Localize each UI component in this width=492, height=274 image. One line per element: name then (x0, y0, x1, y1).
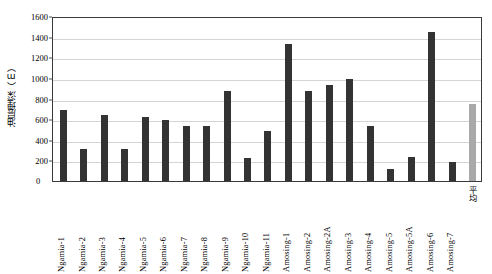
bar-slot (360, 18, 380, 181)
bar-slot (258, 18, 278, 181)
x-axis-label-slot: Amosing-3 (339, 186, 359, 272)
x-axis-tick-label: Amosing-3 (345, 186, 353, 272)
x-axis-tick-label: Amosing-4 (365, 186, 373, 272)
bar-slot (53, 18, 73, 181)
bar-chart: 油层埋深（m） 2004006008001000120014001600 Nga… (0, 0, 492, 274)
bar-slot (319, 18, 339, 181)
x-axis-tick-labels: Ngamia-1Ngamia-2Ngamia-3Ngamia-4Ngamia-5… (52, 186, 482, 272)
x-axis-tick-label: Amosing-5A (406, 186, 414, 272)
x-axis-label-slot: 平均 (462, 186, 482, 272)
bar[interactable] (60, 110, 67, 181)
bar[interactable] (285, 44, 292, 181)
y-axis-tick-label: 800 (35, 95, 48, 104)
x-axis-label-slot: Ngamia-4 (113, 186, 133, 272)
x-axis-tick-label: Ngamia-1 (58, 186, 66, 272)
bar-slot (135, 18, 155, 181)
bar-slot (73, 18, 93, 181)
bar-slot (217, 18, 237, 181)
x-axis-label-slot: Ngamia-3 (93, 186, 113, 272)
bar-slot (196, 18, 216, 181)
bar[interactable] (367, 126, 374, 181)
bar[interactable] (346, 79, 353, 181)
bar[interactable] (387, 169, 394, 181)
x-axis-label-slot: Ngamia-5 (134, 186, 154, 272)
x-axis-label-slot: Ngamia-2 (72, 186, 92, 272)
bar-slot (463, 18, 483, 181)
bar[interactable] (101, 115, 108, 182)
bar[interactable] (121, 149, 128, 181)
bar-slot (340, 18, 360, 181)
bar[interactable] (244, 158, 251, 181)
bar[interactable] (326, 85, 333, 181)
x-axis-label-slot: Ngamia-9 (216, 186, 236, 272)
y-axis-tick-label: 400 (35, 137, 48, 146)
bar[interactable] (305, 91, 312, 181)
bar[interactable] (469, 104, 476, 181)
bar[interactable] (264, 131, 271, 182)
x-axis-label-slot: Ngamia-6 (154, 186, 174, 272)
y-axis-tick-label: 1600 (31, 13, 48, 22)
bar[interactable] (162, 120, 169, 181)
x-axis-tick-label: Ngamia-9 (222, 186, 230, 272)
x-axis-label-slot: Ngamia-7 (175, 186, 195, 272)
x-axis-tick-label: Ngamia-11 (263, 186, 271, 272)
bar-slot (114, 18, 134, 181)
x-axis-tick-label: 平均 (468, 186, 476, 272)
x-axis-label-slot: Ngamia-8 (195, 186, 215, 272)
bar[interactable] (449, 162, 456, 181)
y-axis-tick-label: 600 (35, 116, 48, 125)
x-axis-tick-label: Ngamia-7 (181, 186, 189, 272)
x-axis-tick-label: Amosing-6 (427, 186, 435, 272)
bar[interactable] (428, 32, 435, 182)
bar[interactable] (142, 117, 149, 182)
x-axis-tick-label: Amosing-2A (324, 186, 332, 272)
bar[interactable] (80, 149, 87, 182)
y-axis-tick-label: 1200 (31, 54, 48, 63)
y-axis-tick-label: 1000 (31, 75, 48, 84)
x-axis-label-slot: Amosing-2 (298, 186, 318, 272)
bar-slot (176, 18, 196, 181)
y-axis-tick-label: 1400 (31, 33, 48, 42)
x-axis-tick-label: Amosing-7 (447, 186, 455, 272)
x-axis-label-slot: Amosing-6 (421, 186, 441, 272)
x-axis-tick-label: Ngamia-3 (99, 186, 107, 272)
x-axis-label-slot: Amosing-4 (359, 186, 379, 272)
x-axis-label-slot: Amosing-5 (380, 186, 400, 272)
bar-slot (94, 18, 114, 181)
x-axis-label-slot: Ngamia-10 (236, 186, 256, 272)
bar-slot (237, 18, 257, 181)
x-axis-label-slot: Amosing-2A (318, 186, 338, 272)
x-axis-label-slot: Amosing-7 (441, 186, 461, 272)
bar-slot (381, 18, 401, 181)
y-axis-title-text: 油层埋深（m） (7, 63, 16, 127)
y-axis-title: 油层埋深（m） (0, 0, 22, 190)
bar-slot (401, 18, 421, 181)
bar-slot (442, 18, 462, 181)
bar[interactable] (203, 126, 210, 181)
x-axis-tick-label: Ngamia-6 (160, 186, 168, 272)
x-axis-label-slot: Amosing-1 (277, 186, 297, 272)
x-axis-tick-label: Ngamia-2 (79, 186, 87, 272)
bars-layer (53, 18, 481, 181)
bar[interactable] (183, 126, 190, 181)
y-axis-tick-label-zero: 0 (36, 176, 40, 186)
bar-slot (299, 18, 319, 181)
plot-area (52, 17, 482, 182)
x-axis-tick-label: Ngamia-10 (242, 186, 250, 272)
y-axis-tick-label: 200 (35, 157, 48, 166)
x-axis-tick-label: Amosing-2 (304, 186, 312, 272)
bar[interactable] (408, 157, 415, 181)
x-axis-tick-label: Ngamia-4 (119, 186, 127, 272)
bar-slot (278, 18, 298, 181)
x-axis-label-slot: Ngamia-1 (52, 186, 72, 272)
x-axis-label-slot: Amosing-5A (400, 186, 420, 272)
bar[interactable] (224, 91, 231, 181)
x-axis-tick-label: Ngamia-5 (140, 186, 148, 272)
x-axis-tick-label: Amosing-5 (386, 186, 394, 272)
bar-slot (422, 18, 442, 181)
y-axis-tick-labels: 2004006008001000120014001600 (20, 17, 52, 182)
bar-slot (155, 18, 175, 181)
x-axis-tick-label: Amosing-1 (283, 186, 291, 272)
x-axis-label-slot: Ngamia-11 (257, 186, 277, 272)
x-axis-tick-label: Ngamia-8 (201, 186, 209, 272)
